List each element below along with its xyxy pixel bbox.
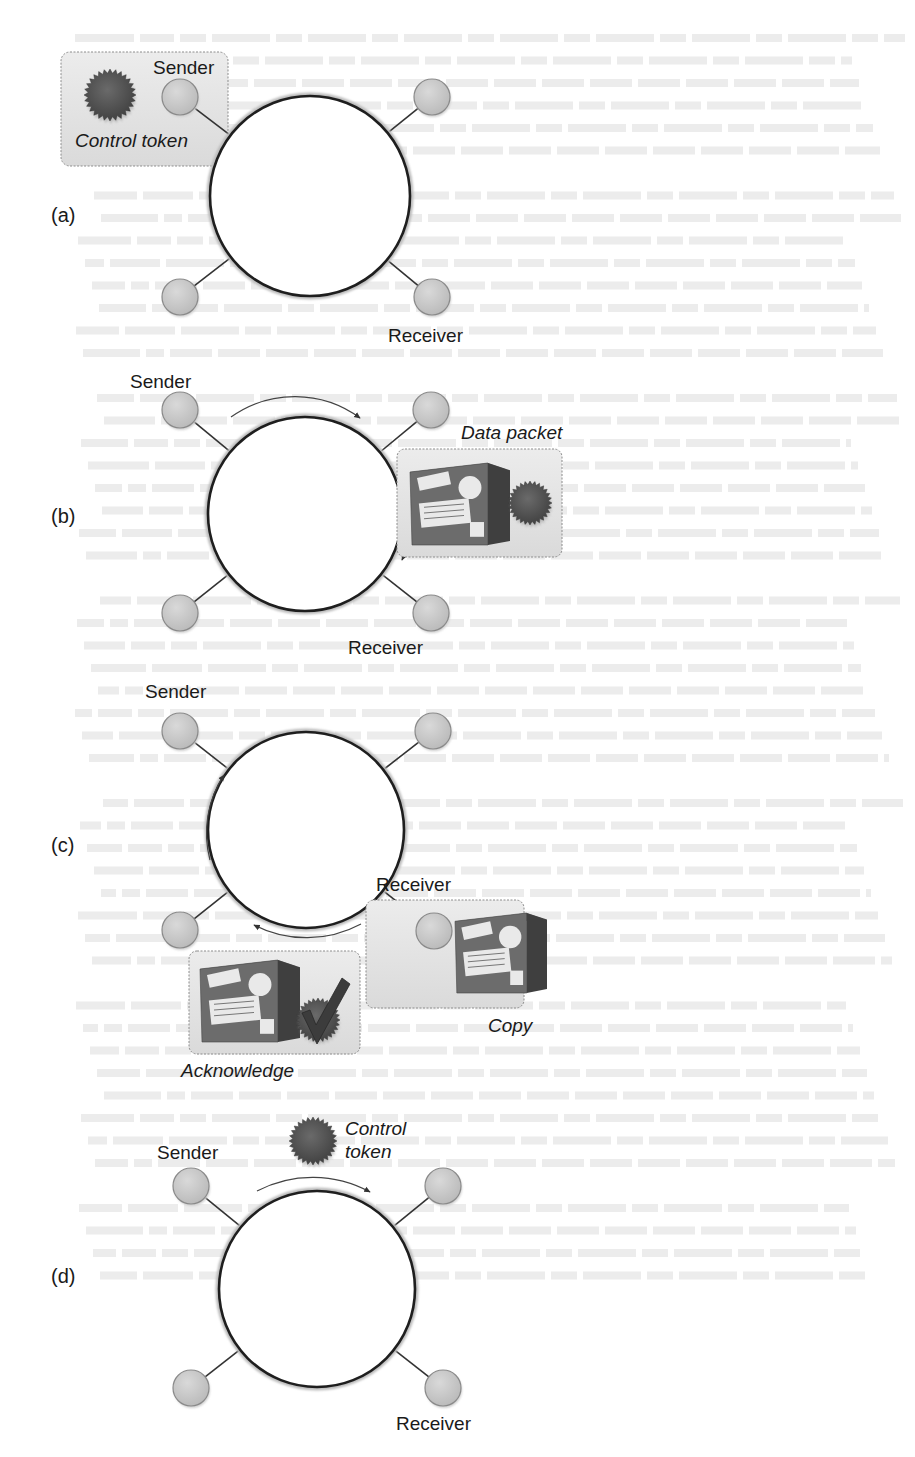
acknowledge-callout-box — [189, 951, 360, 1054]
link-line — [205, 1197, 241, 1227]
panel-c: Sender Receiver (c) Copy Acknowledge — [51, 681, 547, 1081]
panel-label: (b) — [51, 505, 75, 527]
station-node — [162, 279, 198, 315]
station-node — [162, 595, 198, 631]
station-node — [414, 79, 450, 115]
link-line — [387, 260, 418, 286]
data-packet-caption: Data packet — [461, 422, 563, 443]
station-node — [162, 79, 198, 115]
receiver-label: Receiver — [396, 1413, 472, 1434]
ring-network — [173, 1168, 462, 1408]
link-line — [380, 421, 417, 452]
receiver-node-overlay — [416, 913, 452, 949]
acknowledge-caption: Acknowledge — [180, 1060, 294, 1081]
box-side-face — [527, 913, 547, 993]
station-node — [173, 1370, 209, 1406]
link-line — [194, 422, 231, 452]
station-node — [162, 713, 198, 749]
link-line — [381, 574, 417, 602]
link-line — [393, 1197, 429, 1227]
sender-label: Sender — [130, 371, 192, 392]
data-packet-callout-box — [397, 449, 562, 557]
package-box-icon — [455, 913, 547, 993]
link-line — [194, 742, 229, 769]
panel-b: Sender Receiver (b) Data packet — [51, 371, 563, 658]
link-line — [394, 1350, 429, 1377]
link-line — [383, 742, 419, 770]
box-weight-sticker — [459, 476, 482, 499]
panel-a: Control token Sender Receiver (a) — [51, 52, 464, 346]
box-small-label — [510, 971, 523, 985]
box-side-face — [278, 960, 300, 1042]
token-ring-figure: Control token Sender Receiver (a) Sender… — [0, 0, 915, 1457]
receiver-label: Receiver — [388, 325, 464, 346]
link-line — [194, 257, 231, 286]
sender-label: Sender — [145, 681, 207, 702]
station-node — [413, 392, 449, 428]
box-weight-sticker — [499, 926, 521, 948]
link-line — [194, 891, 229, 919]
station-node — [162, 392, 198, 428]
receiver-label: Receiver — [348, 637, 424, 658]
control-token-caption-line2: token — [345, 1141, 391, 1162]
ring-cable — [210, 96, 410, 296]
ring-cable — [219, 1191, 415, 1387]
station-node — [413, 595, 449, 631]
box-weight-sticker — [249, 973, 272, 996]
station-node — [162, 912, 198, 948]
ring-cable — [208, 732, 404, 928]
link-line — [194, 574, 229, 602]
sender-label: Sender — [157, 1142, 219, 1163]
station-node — [415, 713, 451, 749]
package-box-icon — [200, 960, 300, 1042]
sender-label: Sender — [153, 57, 215, 78]
station-node — [173, 1168, 209, 1204]
box-small-label — [260, 1019, 274, 1034]
panel-d: Control token Sender Receiver (d) — [51, 1117, 472, 1434]
panel-label: (d) — [51, 1265, 75, 1287]
station-node — [414, 279, 450, 315]
control-token-caption: Control token — [75, 130, 188, 151]
panel-label: (a) — [51, 204, 75, 226]
copy-caption: Copy — [488, 1015, 534, 1036]
receiver-label: Receiver — [376, 874, 452, 895]
link-line — [388, 108, 418, 133]
station-node — [425, 1370, 461, 1406]
ring-cable — [208, 417, 402, 611]
package-box-icon — [410, 463, 510, 545]
control-token-caption-line1: Control — [345, 1118, 407, 1139]
box-side-face — [488, 463, 510, 545]
station-node — [425, 1168, 461, 1204]
panel-label: (c) — [51, 834, 74, 856]
box-small-label — [470, 522, 484, 537]
control-token-icon — [289, 1117, 338, 1168]
copy-callout-box — [366, 900, 547, 1008]
link-line — [205, 1350, 240, 1377]
